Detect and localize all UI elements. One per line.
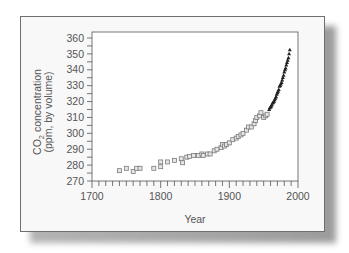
square-marker	[265, 112, 269, 116]
x-tick-label: 1900	[218, 190, 242, 202]
y-tick-label: 300	[66, 127, 84, 139]
square-marker	[124, 166, 128, 170]
plot-area	[92, 32, 298, 181]
x-tick-label: 1800	[149, 190, 173, 202]
square-marker	[188, 154, 192, 158]
y-tick-label: 280	[66, 159, 84, 171]
y-axis-title: CO2 concentration (ppm, by volume)	[31, 69, 54, 155]
square-marker	[215, 147, 219, 151]
y-tick-label: 350	[66, 48, 84, 60]
square-marker	[138, 166, 142, 170]
square-marker	[208, 152, 212, 156]
square-marker	[152, 166, 156, 170]
square-marker	[159, 165, 163, 169]
square-marker	[117, 169, 121, 173]
y-tick-label: 360	[66, 32, 84, 44]
y-tick-label: 340	[66, 63, 84, 75]
y-tick-label: 320	[66, 95, 84, 107]
square-marker	[201, 154, 205, 158]
square-marker	[166, 160, 170, 164]
square-marker	[259, 111, 263, 115]
square-marker	[159, 160, 163, 164]
y-axis-title-line2: (ppm, by volume)	[42, 71, 54, 152]
square-marker	[172, 158, 176, 162]
square-marker	[179, 157, 183, 161]
square-marker	[192, 154, 196, 158]
y-tick-label: 310	[66, 111, 84, 123]
square-marker	[181, 161, 185, 165]
co2-chart: 2702802903003103203303403503601700180019…	[0, 0, 349, 253]
x-axis-title: Year	[184, 213, 206, 225]
y-tick-label: 270	[66, 175, 84, 187]
y-tick-label: 290	[66, 143, 84, 155]
x-tick-label: 2000	[286, 190, 310, 202]
y-tick-label: 330	[66, 79, 84, 91]
x-tick-label: 1700	[80, 190, 104, 202]
